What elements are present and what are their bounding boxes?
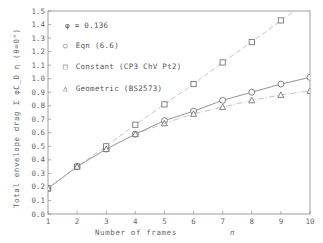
y-tick-label: 0.9 bbox=[31, 88, 45, 97]
y-tick-label: 0.3 bbox=[31, 169, 45, 178]
y-tick-label: 1.4 bbox=[31, 20, 45, 29]
series-line bbox=[48, 91, 310, 188]
triangle-marker-icon bbox=[220, 104, 226, 110]
circle-marker-icon bbox=[220, 97, 226, 103]
y-tick-label: 0.6 bbox=[31, 128, 45, 137]
square-marker-icon bbox=[191, 81, 196, 86]
x-tick-label: 2 bbox=[75, 217, 80, 226]
y-tick-label: 1.2 bbox=[31, 47, 45, 56]
x-tick-label: 8 bbox=[250, 217, 255, 226]
y-tick-label: 1.3 bbox=[31, 34, 45, 43]
y-tick-label: 0.0 bbox=[31, 210, 45, 219]
x-axis-label: Number of frames bbox=[95, 228, 177, 237]
y-tick-label: 1.1 bbox=[31, 61, 45, 70]
x-tick-label: 5 bbox=[162, 217, 167, 226]
series-triangle bbox=[45, 88, 313, 191]
square-marker-icon bbox=[278, 18, 283, 23]
legend-item-constant: □ Constant (CP3 ChV Pt2) bbox=[63, 62, 182, 71]
x-tick-label: 10 bbox=[305, 217, 315, 226]
x-tick-label: 9 bbox=[279, 217, 284, 226]
y-tick-label: 0.7 bbox=[31, 115, 45, 124]
y-tick-label: 0.2 bbox=[31, 182, 45, 191]
x-tick-label: 1 bbox=[46, 217, 51, 226]
circle-marker-icon bbox=[278, 81, 284, 87]
y-tick-label: 0.4 bbox=[31, 155, 45, 164]
legend: φ = 0.136 ○ Eqn (6.6) □ Constant (CP3 Ch… bbox=[63, 21, 182, 93]
triangle-marker-icon bbox=[249, 97, 255, 103]
triangle-marker-icon bbox=[307, 88, 313, 94]
legend-item-eqn: ○ Eqn (6.6) bbox=[63, 41, 119, 50]
y-tick-label: 0.5 bbox=[31, 142, 45, 151]
chart: 0.00.10.20.30.40.50.60.70.80.91.01.11.21… bbox=[0, 0, 323, 243]
square-marker-icon bbox=[220, 60, 225, 65]
legend-annotation: φ = 0.136 bbox=[65, 21, 109, 30]
x-tick-label: 4 bbox=[133, 217, 138, 226]
y-axis-label: Total envelope drag bbox=[12, 111, 21, 208]
square-marker-icon bbox=[249, 40, 254, 45]
circle-marker-icon: ○ bbox=[63, 41, 68, 50]
y-tick-label: 0.8 bbox=[31, 101, 45, 110]
x-axis-ticks: 12345678910 bbox=[46, 211, 315, 226]
circle-marker-icon bbox=[307, 74, 313, 80]
triangle-marker-icon: △ bbox=[63, 84, 68, 93]
x-tick-label: 6 bbox=[191, 217, 196, 226]
square-marker-icon: □ bbox=[63, 62, 68, 71]
y-tick-label: 1.0 bbox=[31, 74, 45, 83]
square-marker-icon bbox=[162, 102, 167, 107]
circle-marker-icon bbox=[249, 89, 255, 95]
y-tick-label: 1.5 bbox=[31, 7, 45, 16]
legend-item-geometric: △ Geometric (BS2573) bbox=[63, 84, 162, 93]
square-marker-icon bbox=[133, 122, 138, 127]
y-tick-label: 0.1 bbox=[31, 196, 45, 205]
x-tick-label: 7 bbox=[220, 217, 225, 226]
x-axis-symbol: n bbox=[230, 228, 235, 237]
y-axis-formula: Σ φC_D η (θ=0°) bbox=[12, 28, 21, 105]
x-tick-label: 3 bbox=[104, 217, 109, 226]
